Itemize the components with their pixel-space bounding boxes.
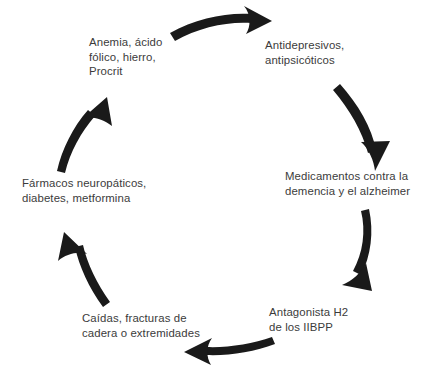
node-label-caidas: Caídas, fracturas de cadera o extremidad… xyxy=(82,311,247,340)
arrow-antagonista-to-caidas xyxy=(184,337,275,365)
cycle-diagram: Anemia, ácido fólico, hierro, Procrit An… xyxy=(0,0,448,389)
node-label-demencia: Medicamentos contra la demencia y el alz… xyxy=(285,169,445,198)
arrow-farmacos-to-anemia xyxy=(57,97,112,173)
arrow-caidas-to-farmacos xyxy=(58,232,110,307)
arrow-antidepresivos-to-demencia xyxy=(333,84,390,171)
node-label-antidepresivos: Antidepresivos, antipsicóticos xyxy=(265,38,405,67)
node-label-farmacos: Fármacos neuropáticos, diabetes, metform… xyxy=(22,176,192,205)
node-label-antagonista: Antagonista H2 de los IIBPP xyxy=(269,305,409,334)
node-label-anemia: Anemia, ácido fólico, hierro, Procrit xyxy=(89,35,209,79)
arrow-demencia-to-antagonista xyxy=(342,209,372,291)
